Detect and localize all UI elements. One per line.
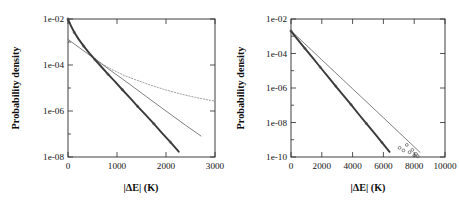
ytick-label: 1e-06 — [266, 83, 287, 93]
chart-panel-left: 0 1000 2000 3000 1e-02 1e-04 1e-06 1e-08… — [0, 0, 230, 205]
chart-panel-right: 0 2000 4000 6000 8000 10000 1e-02 1e-04 … — [229, 0, 459, 205]
xtick-label: 2000 — [313, 161, 332, 171]
xtick-label: 6000 — [374, 161, 393, 171]
xtick-label: 8000 — [405, 161, 424, 171]
ytick-label: 1e-04 — [266, 49, 287, 59]
xtick-label: 0 — [66, 161, 71, 171]
ytick-label: 1e-02 — [266, 14, 287, 24]
tail-outlier-markers — [398, 144, 419, 158]
data-point-marker — [405, 144, 408, 147]
y-axis-title: Probability density — [10, 47, 21, 130]
x-axis-title: |ΔE| (K) — [351, 182, 386, 194]
series-group-left — [67, 18, 215, 152]
simulation-data-markers — [67, 18, 172, 144]
simulation-data-curve — [68, 19, 179, 152]
xtick-label: 1000 — [108, 161, 127, 171]
chart-svg-left: 0 1000 2000 3000 1e-02 1e-04 1e-06 1e-08… — [0, 0, 230, 205]
xtick-label: 4000 — [343, 161, 362, 171]
model-curve-dotted — [68, 19, 215, 101]
x-axis-title: |ΔE| (K) — [124, 182, 159, 194]
exponential-fit-line — [291, 31, 420, 153]
data-point-marker — [408, 151, 411, 154]
xtick-label: 10000 — [434, 161, 457, 171]
ytick-label: 1e-02 — [43, 14, 64, 24]
y-axis-ticks — [291, 19, 445, 157]
ytick-label: 1e-10 — [266, 152, 287, 162]
xtick-label: 3000 — [206, 161, 225, 171]
series-group-right — [290, 30, 420, 158]
x-axis-ticks — [291, 19, 445, 157]
ytick-label: 1e-08 — [266, 118, 287, 128]
xtick-label: 0 — [289, 161, 294, 171]
ytick-label: 1e-04 — [43, 60, 64, 70]
data-point-marker — [411, 148, 414, 151]
exponential-fit-line — [68, 39, 201, 136]
chart-svg-right: 0 2000 4000 6000 8000 10000 1e-02 1e-04 … — [229, 0, 459, 205]
ytick-label: 1e-06 — [43, 106, 64, 116]
plot-frame — [291, 19, 445, 157]
ytick-label: 1e-08 — [43, 152, 64, 162]
y-axis-title: Probability density — [235, 47, 246, 130]
plot-frame — [68, 19, 215, 157]
data-point-marker — [402, 149, 405, 152]
y-axis-ticks — [68, 19, 215, 157]
data-point-marker — [398, 146, 401, 149]
x-axis-ticks — [68, 19, 215, 157]
two-panel-figure: 0 1000 2000 3000 1e-02 1e-04 1e-06 1e-08… — [0, 0, 459, 205]
xtick-label: 2000 — [157, 161, 176, 171]
